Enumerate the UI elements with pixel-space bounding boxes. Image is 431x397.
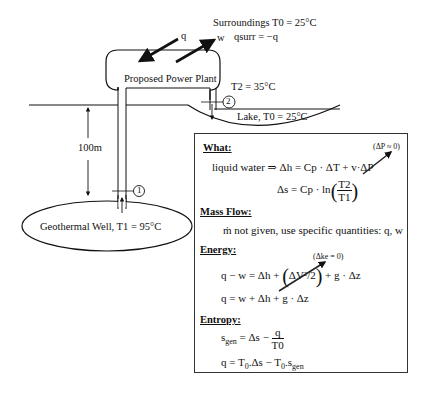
- surroundings-label: Surroundings T0 = 25°C: [213, 18, 317, 29]
- mass-flow-text: ṁ not given, use specific quantities: q,…: [223, 224, 403, 236]
- heat-eq-part-a: q = T: [221, 356, 245, 368]
- entropy-change-equation: Δs = Cp · ln(T2T1): [277, 178, 358, 203]
- sgen-mid: = Δs −: [237, 331, 272, 343]
- heat-eq-part-b: .Δs − T: [249, 356, 281, 368]
- work-arrow-label: w: [217, 33, 225, 44]
- work-arrow: [176, 40, 214, 62]
- heat-equation: q = T0.Δs − T0.sgen: [221, 356, 304, 371]
- lake-label: Lake, T0 = 25°C: [237, 112, 308, 123]
- state-1-number: 1: [137, 186, 142, 195]
- energy-heading: Energy:: [200, 244, 236, 255]
- well-label: Geothermal Well, T1 = 95°C: [40, 222, 161, 233]
- heat-eq-sub-gen: gen: [292, 362, 304, 371]
- what-heading: What:: [203, 142, 232, 153]
- t2-numerator: T2: [337, 178, 351, 191]
- entropy-heading: Entropy:: [200, 314, 241, 325]
- heat-arrow-label: q: [181, 31, 186, 42]
- entropy-generation-equation: sgen = Δs − qT0: [221, 326, 284, 351]
- enthalpy-equation: liquid water ⇒ Δh = Cp · ΔT + v·ΔP: [212, 161, 374, 174]
- q-numerator: q: [272, 326, 284, 339]
- dp-cancel-arrow: [361, 148, 397, 176]
- t1-denominator: T1: [337, 191, 351, 203]
- entropy-change-lhs: Δs = Cp · ln: [277, 183, 331, 195]
- t0-denominator: T0: [272, 339, 284, 351]
- state-2-temperature: T2 = 35°C: [231, 82, 276, 93]
- plant-label: Proposed Power Plant: [124, 74, 217, 85]
- depth-label: 100m: [78, 143, 102, 154]
- mass-flow-heading: Mass Flow:: [200, 206, 252, 217]
- energy-equation-2: q = w + Δh + g · Δz: [221, 292, 309, 304]
- sgen-subscript: gen: [225, 337, 237, 346]
- q-surr-label: qsurr = −q: [234, 32, 278, 43]
- state-2-number: 2: [226, 97, 231, 106]
- energy-eq1-lhs: q − w = Δh +: [221, 269, 282, 281]
- analysis-panel: What: (ΔP ≈ 0) liquid water ⇒ Δh = Cp · …: [194, 133, 408, 373]
- dke-cancel-arrow: [277, 258, 329, 294]
